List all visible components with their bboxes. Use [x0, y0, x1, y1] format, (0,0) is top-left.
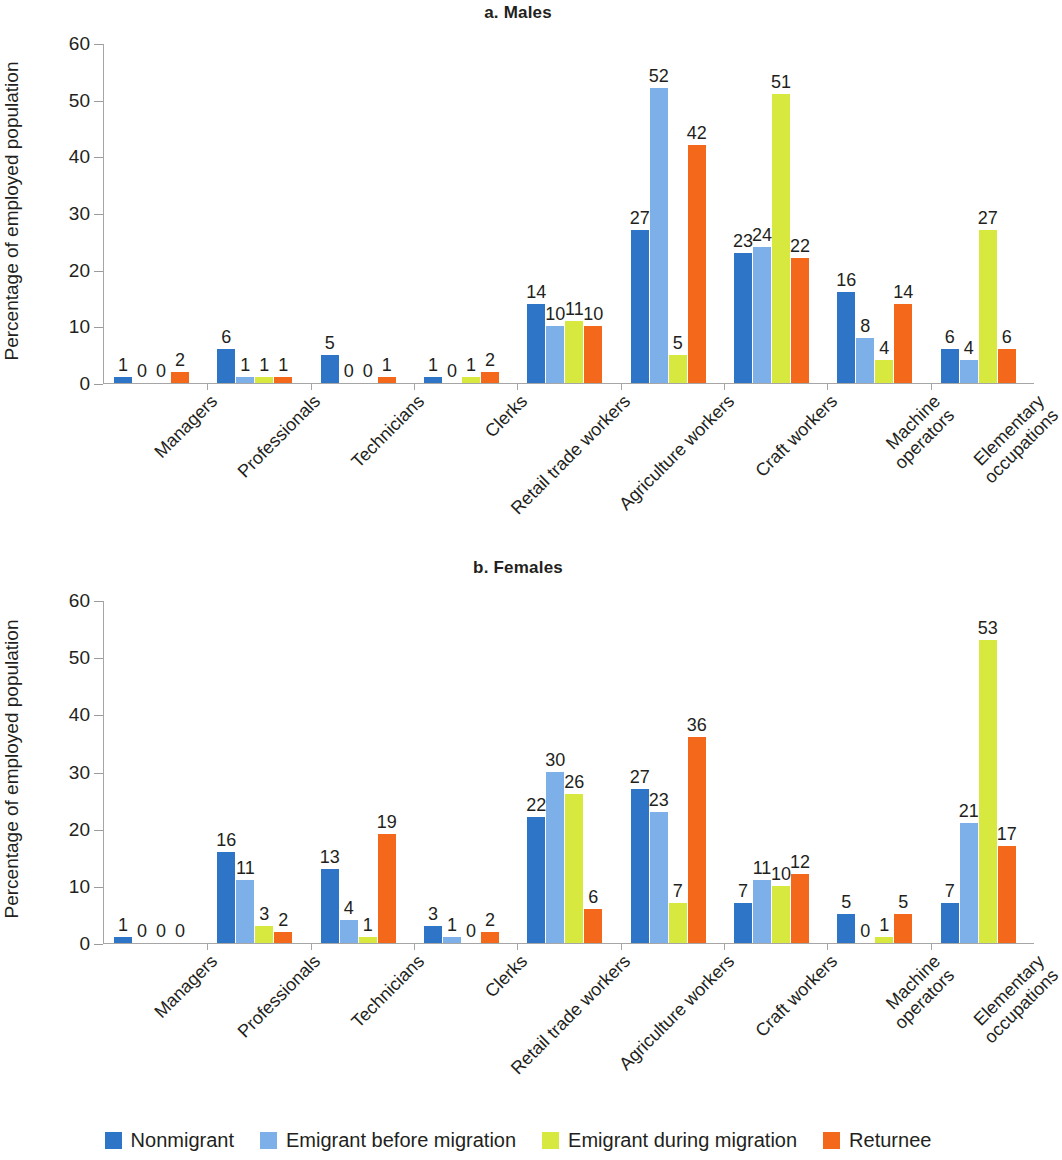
- bar[interactable]: [255, 926, 273, 943]
- bar-item[interactable]: 24: [753, 44, 771, 383]
- bar[interactable]: [584, 909, 602, 943]
- bar[interactable]: [772, 886, 790, 943]
- bar-item[interactable]: 7: [669, 601, 687, 943]
- bar-item[interactable]: 5: [894, 601, 912, 943]
- bar-item[interactable]: 22: [791, 44, 809, 383]
- bar[interactable]: [837, 914, 855, 943]
- bar-item[interactable]: 6: [217, 44, 235, 383]
- bar[interactable]: [791, 258, 809, 383]
- bar-item[interactable]: 6: [584, 601, 602, 943]
- bar-item[interactable]: 4: [340, 601, 358, 943]
- bar-item[interactable]: 1: [255, 44, 273, 383]
- bar-item[interactable]: 53: [979, 601, 997, 943]
- bar-item[interactable]: 21: [960, 601, 978, 943]
- legend-item[interactable]: Nonmigrant: [105, 1129, 234, 1152]
- bar-item[interactable]: 23: [734, 44, 752, 383]
- bar-item[interactable]: 7: [734, 601, 752, 943]
- bar-item[interactable]: 1: [424, 44, 442, 383]
- bar-item[interactable]: 5: [837, 601, 855, 943]
- bar[interactable]: [650, 88, 668, 383]
- bar-item[interactable]: 0: [133, 601, 151, 943]
- bar-item[interactable]: 13: [321, 601, 339, 943]
- bar-item[interactable]: 0: [359, 44, 377, 383]
- bar[interactable]: [321, 355, 339, 383]
- bar-item[interactable]: 1: [274, 44, 292, 383]
- bar[interactable]: [378, 834, 396, 943]
- bar[interactable]: [236, 880, 254, 943]
- bar[interactable]: [669, 903, 687, 943]
- bar[interactable]: [941, 903, 959, 943]
- bar[interactable]: [481, 932, 499, 943]
- bar[interactable]: [481, 372, 499, 383]
- bar-item[interactable]: 17: [998, 601, 1016, 943]
- bar[interactable]: [960, 360, 978, 383]
- bar-item[interactable]: 11: [753, 601, 771, 943]
- bar[interactable]: [171, 372, 189, 383]
- bar-item[interactable]: 42: [688, 44, 706, 383]
- bar-item[interactable]: 0: [171, 601, 189, 943]
- bar[interactable]: [837, 292, 855, 383]
- bar[interactable]: [546, 772, 564, 944]
- bar-item[interactable]: 11: [565, 44, 583, 383]
- bar-item[interactable]: 1: [443, 601, 461, 943]
- bar-item[interactable]: 0: [152, 601, 170, 943]
- bar[interactable]: [114, 937, 132, 943]
- bar-item[interactable]: 27: [631, 601, 649, 943]
- bar[interactable]: [688, 145, 706, 383]
- bar-item[interactable]: 1: [462, 44, 480, 383]
- bar-item[interactable]: 22: [527, 601, 545, 943]
- bar[interactable]: [960, 823, 978, 943]
- bar-item[interactable]: 27: [631, 44, 649, 383]
- bar[interactable]: [527, 817, 545, 943]
- bar[interactable]: [650, 812, 668, 943]
- bar[interactable]: [734, 253, 752, 383]
- bar[interactable]: [274, 377, 292, 383]
- bar-item[interactable]: 52: [650, 44, 668, 383]
- bar[interactable]: [217, 852, 235, 943]
- bar-item[interactable]: 10: [546, 44, 564, 383]
- bar-item[interactable]: 4: [875, 44, 893, 383]
- bar[interactable]: [321, 869, 339, 943]
- bar-item[interactable]: 1: [378, 44, 396, 383]
- bar[interactable]: [217, 349, 235, 383]
- bar[interactable]: [114, 377, 132, 383]
- bar-item[interactable]: 51: [772, 44, 790, 383]
- bar-item[interactable]: 30: [546, 601, 564, 943]
- bar[interactable]: [631, 789, 649, 943]
- bar[interactable]: [462, 377, 480, 383]
- bar[interactable]: [998, 349, 1016, 383]
- bar-item[interactable]: 3: [424, 601, 442, 943]
- bar-item[interactable]: 2: [171, 44, 189, 383]
- bar-item[interactable]: 0: [152, 44, 170, 383]
- bar[interactable]: [527, 304, 545, 383]
- bar-item[interactable]: 5: [669, 44, 687, 383]
- bar-item[interactable]: 1: [236, 44, 254, 383]
- bar-item[interactable]: 0: [443, 44, 461, 383]
- legend-item[interactable]: Emigrant before migration: [260, 1129, 516, 1152]
- bar-item[interactable]: 27: [979, 44, 997, 383]
- legend-item[interactable]: Returnee: [823, 1129, 931, 1152]
- bar-item[interactable]: 2: [481, 44, 499, 383]
- bar[interactable]: [631, 230, 649, 383]
- bar-item[interactable]: 1: [114, 44, 132, 383]
- bar-item[interactable]: 10: [772, 601, 790, 943]
- bar[interactable]: [753, 880, 771, 943]
- bar[interactable]: [584, 326, 602, 383]
- bar-item[interactable]: 6: [941, 44, 959, 383]
- bar[interactable]: [255, 377, 273, 383]
- bar[interactable]: [236, 377, 254, 383]
- bar[interactable]: [443, 937, 461, 943]
- bar-item[interactable]: 1: [114, 601, 132, 943]
- bar[interactable]: [424, 926, 442, 943]
- bar[interactable]: [894, 914, 912, 943]
- bar-item[interactable]: 1: [875, 601, 893, 943]
- bar[interactable]: [856, 338, 874, 383]
- bar[interactable]: [875, 937, 893, 943]
- bar-item[interactable]: 11: [236, 601, 254, 943]
- bar-item[interactable]: 14: [527, 44, 545, 383]
- bar-item[interactable]: 16: [217, 601, 235, 943]
- bar[interactable]: [772, 94, 790, 383]
- bar-item[interactable]: 8: [856, 44, 874, 383]
- bar[interactable]: [340, 920, 358, 943]
- bar[interactable]: [546, 326, 564, 383]
